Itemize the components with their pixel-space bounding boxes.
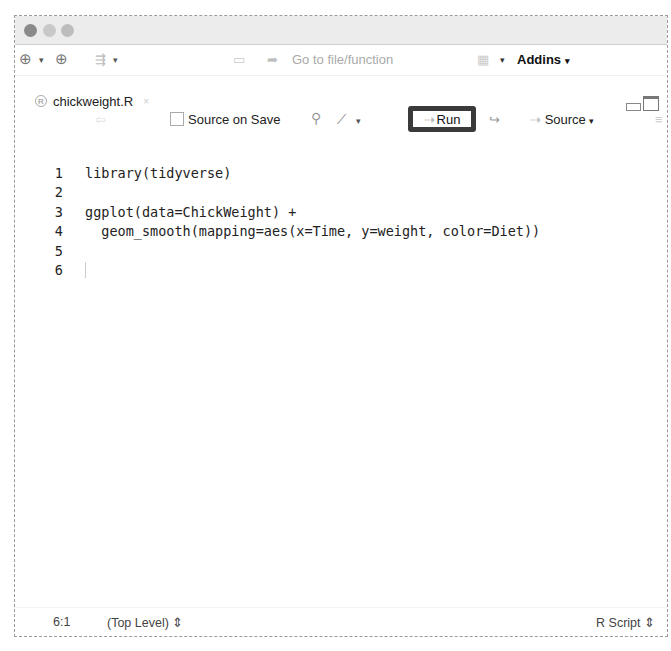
minimize-window-button[interactable] (43, 24, 56, 37)
print-icon[interactable]: ▭ (233, 52, 245, 67)
tab-filename: chickweight.R (53, 94, 133, 109)
code-tools-wand-icon[interactable]: ⟋ (337, 112, 346, 128)
goto-file-function-input[interactable]: Go to file/function (292, 52, 393, 67)
line-number: 4 (15, 223, 85, 239)
close-window-button[interactable] (24, 24, 37, 37)
status-bar: 6:1 (Top Level) ⇕ R Script ⇕ (15, 607, 667, 636)
line-number: 3 (15, 204, 85, 220)
main-toolbar: ⊕ ▾ ⊕ ⇶ ▾ ▭ ➦ Go to file/function ▦ ▾ Ad… (15, 45, 667, 76)
code-line: 2 (15, 183, 667, 203)
code-line: 3ggplot(data=ChickWeight) + (15, 202, 667, 222)
outline-icon[interactable]: ≡ (655, 112, 663, 127)
source-on-save-label: Source on Save (188, 112, 281, 127)
scope-selector[interactable]: (Top Level) ⇕ (107, 615, 183, 630)
open-project-icon[interactable]: ⊕ (55, 50, 68, 68)
text-cursor (85, 262, 86, 278)
checkbox-icon (170, 112, 184, 126)
cursor-position: 6:1 (53, 615, 70, 629)
code-tools-dropdown-icon[interactable]: ▾ (356, 116, 361, 126)
close-tab-icon[interactable]: × (143, 96, 149, 107)
rerun-icon[interactable]: ↪ (489, 112, 500, 127)
run-button[interactable]: ⇢ Run (408, 106, 476, 132)
back-icon[interactable]: ⇦ (95, 112, 106, 127)
editor-toolbar: ⇦ Source on Save ⚲ ⟋ ▾ ⇢ Run ↪ ⇢ Source … (15, 108, 667, 134)
grid-icon[interactable]: ▦ (477, 52, 489, 67)
code-line: 6 (15, 261, 667, 281)
line-number: 1 (15, 165, 85, 181)
run-label: Run (437, 112, 461, 127)
grid-dropdown-icon[interactable]: ▾ (500, 55, 505, 65)
source-arrow-icon: ⇢ (530, 112, 541, 127)
r-file-icon: R (35, 95, 47, 107)
new-file-dropdown-icon[interactable]: ▾ (39, 55, 44, 65)
addins-menu[interactable]: Addins ▾ (517, 52, 570, 67)
source-dropdown-icon: ▾ (589, 116, 594, 126)
code-line: 4 geom_smooth(mapping=aes(x=Time, y=weig… (15, 222, 667, 242)
source-on-save-checkbox[interactable]: Source on Save (170, 112, 281, 127)
addins-label: Addins (517, 52, 561, 67)
line-number: 2 (15, 184, 85, 200)
source-button[interactable]: ⇢ Source ▾ (530, 112, 594, 127)
addins-dropdown-icon: ▾ (565, 56, 570, 66)
code-text: library(tidyverse) (85, 165, 231, 181)
code-editor[interactable]: 1library(tidyverse) 2 3ggplot(data=Chick… (15, 163, 667, 280)
goto-arrow-icon: ➦ (267, 52, 278, 67)
run-arrow-icon: ⇢ (424, 112, 435, 127)
save-icon[interactable]: ⇶ (95, 52, 106, 67)
code-line: 1library(tidyverse) (15, 163, 667, 183)
line-number: 6 (15, 262, 85, 278)
file-type-selector[interactable]: R Script ⇕ (596, 615, 655, 630)
title-bar (15, 16, 667, 45)
source-label: Source (545, 112, 586, 127)
find-icon[interactable]: ⚲ (311, 110, 321, 126)
line-number: 5 (15, 243, 85, 259)
editor-tabbar: R chickweight.R × (15, 76, 667, 108)
code-text: ggplot(data=ChickWeight) + (85, 204, 296, 220)
zoom-window-button[interactable] (61, 24, 74, 37)
code-text: geom_smooth(mapping=aes(x=Time, y=weight… (85, 223, 540, 239)
new-file-icon[interactable]: ⊕ (19, 50, 32, 68)
rstudio-window: ⊕ ▾ ⊕ ⇶ ▾ ▭ ➦ Go to file/function ▦ ▾ Ad… (14, 15, 668, 637)
save-dropdown-icon[interactable]: ▾ (113, 55, 118, 65)
code-line: 5 (15, 241, 667, 261)
